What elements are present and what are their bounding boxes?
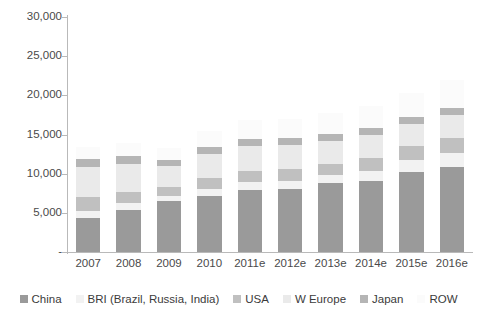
bar-group[interactable] — [359, 17, 383, 252]
bar-segment[interactable] — [359, 181, 383, 252]
legend-item-label: USA — [245, 293, 269, 305]
bar-stack[interactable] — [318, 113, 342, 252]
bar-group[interactable] — [278, 17, 302, 252]
legend-item[interactable]: ROW — [417, 293, 457, 305]
bar-segment[interactable] — [440, 115, 464, 139]
legend-item[interactable]: China — [20, 293, 62, 305]
y-axis-tick-label: 20,000 — [4, 89, 62, 100]
bar-segment[interactable] — [359, 135, 383, 158]
x-axis-tick-label: 2015e — [391, 256, 431, 270]
bar-segment[interactable] — [440, 108, 464, 115]
legend-swatch-icon — [76, 295, 84, 303]
bar-segment[interactable] — [318, 141, 342, 164]
bar-stack[interactable] — [76, 147, 100, 252]
bar-segment[interactable] — [278, 169, 302, 181]
bar-group[interactable] — [440, 17, 464, 252]
legend-swatch-icon — [233, 295, 241, 303]
bar-segment[interactable] — [238, 120, 262, 139]
bar-segment[interactable] — [278, 138, 302, 145]
bar-segment[interactable] — [399, 160, 423, 173]
bar-segment[interactable] — [116, 210, 140, 252]
bar-segment[interactable] — [116, 192, 140, 204]
bar-group[interactable] — [318, 17, 342, 252]
x-axis-tick-label: 2012e — [270, 256, 310, 270]
bar-segment[interactable] — [238, 171, 262, 182]
bar-stack[interactable] — [157, 148, 181, 252]
x-axis-tick-label: 2009 — [149, 256, 189, 270]
bar-segment[interactable] — [359, 128, 383, 135]
x-axis-tick-label: 2011e — [230, 256, 270, 270]
legend-item-label: ROW — [429, 293, 457, 305]
bar-group[interactable] — [238, 17, 262, 252]
bar-segment[interactable] — [399, 93, 423, 117]
bar-segment[interactable] — [318, 175, 342, 183]
bar-segment[interactable] — [157, 166, 181, 187]
chart-legend: ChinaBRI (Brazil, Russia, India)USAW Eur… — [0, 288, 477, 310]
bar-segment[interactable] — [440, 153, 464, 168]
bar-segment[interactable] — [197, 147, 221, 154]
bar-segment[interactable] — [76, 147, 100, 159]
bar-segment[interactable] — [399, 117, 423, 124]
bar-segment[interactable] — [440, 80, 464, 108]
bar-segment[interactable] — [399, 124, 423, 147]
bar-segment[interactable] — [440, 138, 464, 152]
bar-segment[interactable] — [318, 113, 342, 133]
y-axis-labels: -5,00010,00015,00020,00025,00030,000 — [0, 0, 62, 316]
bar-segment[interactable] — [76, 197, 100, 211]
bar-stack[interactable] — [116, 143, 140, 252]
bar-group[interactable] — [197, 17, 221, 252]
legend-item[interactable]: USA — [233, 293, 269, 305]
bar-segment[interactable] — [238, 190, 262, 252]
y-axis-tick-label: 10,000 — [4, 168, 62, 179]
bar-segment[interactable] — [157, 201, 181, 252]
y-axis-tick-label: 15,000 — [4, 129, 62, 140]
bar-stack[interactable] — [238, 120, 262, 252]
bar-segment[interactable] — [238, 182, 262, 190]
legend-item[interactable]: Japan — [360, 293, 403, 305]
bar-segment[interactable] — [197, 178, 221, 188]
bar-segment[interactable] — [116, 143, 140, 156]
bar-segment[interactable] — [399, 172, 423, 252]
bar-segment[interactable] — [278, 119, 302, 138]
legend-swatch-icon — [20, 295, 28, 303]
bar-stack[interactable] — [278, 119, 302, 252]
bar-segment[interactable] — [359, 171, 383, 181]
bar-stack[interactable] — [440, 80, 464, 252]
bar-segment[interactable] — [278, 181, 302, 189]
bar-segment[interactable] — [399, 146, 423, 159]
legend-item[interactable]: BRI (Brazil, Russia, India) — [76, 293, 220, 305]
bar-segment[interactable] — [318, 134, 342, 141]
bar-segment[interactable] — [157, 187, 181, 196]
bar-segment[interactable] — [359, 158, 383, 171]
bar-segment[interactable] — [116, 156, 140, 163]
bar-segment[interactable] — [76, 167, 100, 198]
bar-segment[interactable] — [76, 159, 100, 167]
bar-segment[interactable] — [238, 139, 262, 146]
bar-segment[interactable] — [318, 183, 342, 252]
bar-segment[interactable] — [197, 154, 221, 178]
bar-segment[interactable] — [238, 146, 262, 171]
bar-segment[interactable] — [278, 145, 302, 169]
bar-segment[interactable] — [318, 164, 342, 176]
bar-segment[interactable] — [76, 211, 100, 218]
bar-segment[interactable] — [197, 131, 221, 147]
legend-swatch-icon — [417, 295, 425, 303]
bar-group[interactable] — [157, 17, 181, 252]
bar-segment[interactable] — [116, 203, 140, 210]
bar-stack[interactable] — [399, 93, 423, 252]
bar-group[interactable] — [399, 17, 423, 252]
bar-segment[interactable] — [278, 189, 302, 252]
bar-segment[interactable] — [157, 148, 181, 160]
bar-stack[interactable] — [197, 131, 221, 252]
x-axis-tick-label: 2013e — [310, 256, 350, 270]
bar-segment[interactable] — [440, 167, 464, 252]
bar-segment[interactable] — [359, 106, 383, 129]
bar-group[interactable] — [116, 17, 140, 252]
bar-group[interactable] — [76, 17, 100, 252]
bar-stack[interactable] — [359, 106, 383, 252]
legend-item[interactable]: W Europe — [283, 293, 346, 305]
bar-segment[interactable] — [76, 218, 100, 252]
bar-segment[interactable] — [116, 164, 140, 192]
bar-segment[interactable] — [197, 196, 221, 252]
bar-segment[interactable] — [197, 189, 221, 196]
